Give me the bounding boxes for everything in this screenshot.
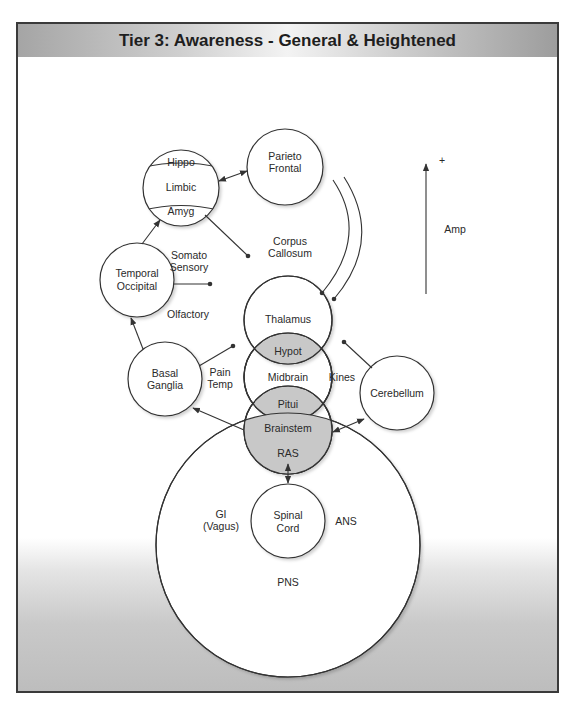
svg-text:(Vagus): (Vagus) xyxy=(203,520,239,532)
svg-text:Callosum: Callosum xyxy=(268,247,312,259)
svg-text:Pitui: Pitui xyxy=(278,398,298,410)
ans-label: ANS xyxy=(335,515,357,527)
pns-label: PNS xyxy=(277,576,299,588)
amyg-corpus-line xyxy=(205,215,248,256)
svg-text:Cerebellum: Cerebellum xyxy=(370,387,424,399)
corpus-callosum-label: Corpus xyxy=(273,235,307,247)
plus-label: + xyxy=(439,154,445,166)
svg-text:Amyg: Amyg xyxy=(168,205,195,217)
olfactory-label: Olfactory xyxy=(167,308,210,320)
svg-text:Basal: Basal xyxy=(152,367,178,379)
limbic-parieto-arrow xyxy=(219,171,247,181)
temporal-occipital-node: Temporal Occipital xyxy=(100,243,174,317)
svg-text:Ganglia: Ganglia xyxy=(147,379,183,391)
temporal-limbic-arrow xyxy=(142,220,160,244)
kines-label: Kines xyxy=(329,371,355,383)
gi-vagus-label: GI xyxy=(215,508,226,520)
limbic-node: Hippo Limbic Amyg xyxy=(140,150,222,226)
svg-text:Cord: Cord xyxy=(277,522,300,534)
somato-sensory-label: Somato xyxy=(171,249,207,261)
pain-temp-line xyxy=(199,346,233,366)
spinal-cord-node: Spinal Cord xyxy=(251,484,325,558)
basal-temporal-arrow xyxy=(131,318,143,349)
midbrain-label: Midbrain xyxy=(268,371,308,383)
thalamus-label: Thalamus xyxy=(265,313,311,325)
svg-text:Temp: Temp xyxy=(207,378,233,390)
kines-line xyxy=(344,342,372,368)
svg-text:Hypot: Hypot xyxy=(274,345,302,357)
svg-text:Sensory: Sensory xyxy=(170,261,209,273)
pain-temp-label: Pain xyxy=(209,366,230,378)
svg-text:Limbic: Limbic xyxy=(166,181,196,193)
svg-text:Hippo: Hippo xyxy=(167,156,195,168)
parieto-frontal-node: Parieto Frontal xyxy=(247,129,323,205)
svg-text:Occipital: Occipital xyxy=(117,280,157,292)
svg-text:RAS: RAS xyxy=(277,447,299,459)
svg-text:Frontal: Frontal xyxy=(269,162,302,174)
svg-text:Temporal: Temporal xyxy=(115,267,158,279)
basal-ganglia-node: Basal Ganglia xyxy=(128,342,202,416)
brainstem-label: Brainstem xyxy=(264,422,312,434)
brainstem-basal-arrow xyxy=(193,408,244,430)
brain-awareness-diagram: Spinal Cord Hypot Pitui RAS Thalamus Mid… xyxy=(0,0,575,716)
corpus-callosum-arc-outer xyxy=(334,177,362,299)
corpus-callosum-arc-inner xyxy=(322,180,349,293)
amp-label: Amp xyxy=(444,223,466,235)
svg-text:Spinal: Spinal xyxy=(273,509,302,521)
svg-text:Parieto: Parieto xyxy=(268,150,301,162)
